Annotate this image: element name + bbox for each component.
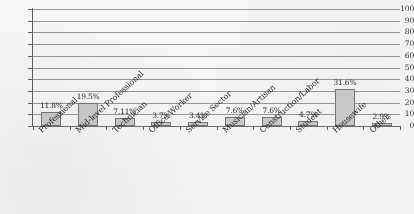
y-tick-mark <box>28 114 32 115</box>
y-tick-mark <box>28 126 32 127</box>
y-tick-mark <box>28 91 32 92</box>
y-tick-label: 20 <box>388 99 414 107</box>
gridline-80 <box>33 32 400 33</box>
y-tick-mark <box>28 9 32 10</box>
gridline-50 <box>33 68 400 69</box>
y-tick-label: 70 <box>388 40 414 48</box>
y-tick-mark <box>28 79 32 80</box>
bar-data-label: 31.6% <box>323 78 367 87</box>
chart-screenshot: 11.8%19.5%7.11%3.7%3.4%7.6%7.6%4.7%31.6%… <box>0 0 414 214</box>
y-tick-mark <box>28 21 32 22</box>
y-tick-mark <box>28 32 32 33</box>
gridline-90 <box>33 21 400 22</box>
y-tick-label: 90 <box>388 17 414 25</box>
y-tick-label: 100 <box>388 5 414 13</box>
y-tick-mark <box>28 56 32 57</box>
gridline-60 <box>33 56 400 57</box>
y-axis-line <box>32 8 33 127</box>
y-tick-label: 80 <box>388 28 414 36</box>
y-tick-mark <box>28 44 32 45</box>
y-tick-label: 30 <box>388 87 414 95</box>
y-tick-mark <box>28 68 32 69</box>
gridline-70 <box>33 44 400 45</box>
y-tick-label: 40 <box>388 75 414 83</box>
x-axis-labels: ProfessionalMid-level ProfessionalTechni… <box>33 128 414 214</box>
y-tick-label: 50 <box>388 64 414 72</box>
gridline-100 <box>33 9 400 10</box>
y-tick-label: 60 <box>388 52 414 60</box>
y-tick-label: 10 <box>388 110 414 118</box>
y-tick-mark <box>28 103 32 104</box>
